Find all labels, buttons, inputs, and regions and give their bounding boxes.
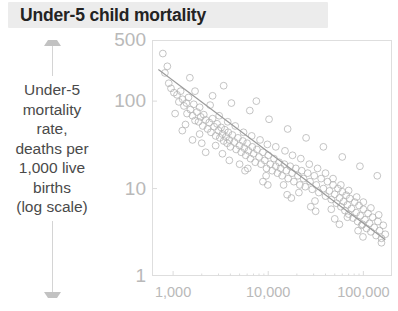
chart-figure: Under-5 child mortality Under-5 mortalit…	[0, 0, 398, 311]
tick-label-layer: 1101005001,00010,000100,000	[0, 0, 398, 311]
y-tick-label: 10	[90, 179, 146, 198]
y-tick-label: 1	[90, 266, 146, 285]
y-tick-label: 100	[90, 91, 146, 110]
x-tick-label: 10,000	[246, 284, 290, 300]
x-tick-label: 1,000	[155, 284, 191, 300]
x-tick-label: 100,000	[337, 284, 389, 300]
y-tick-label: 500	[90, 30, 146, 49]
